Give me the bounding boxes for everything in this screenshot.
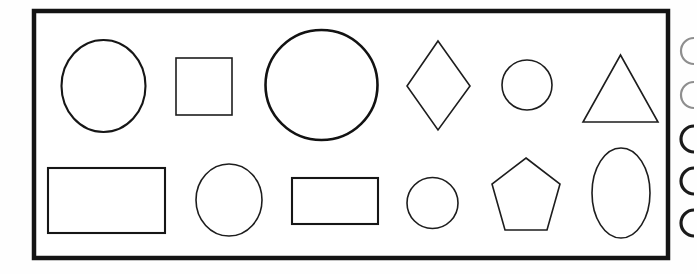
edge-mark-2 [681,82,694,108]
figure-canvas [0,0,697,274]
cropped-edge-marks [681,38,694,236]
edge-mark-5 [681,210,694,236]
figure-border [34,11,668,258]
geometric-shapes-figure [0,0,697,274]
edge-mark-4 [681,168,694,194]
edge-mark-3 [681,126,694,152]
edge-mark-1 [681,38,694,64]
